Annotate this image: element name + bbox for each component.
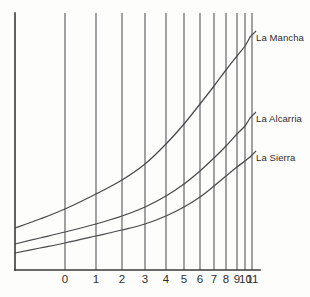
x-tick-label-5: 5	[181, 273, 187, 285]
label-leader-group	[250, 31, 256, 157]
gridline-group	[65, 13, 252, 270]
x-tick-label-11: 11	[247, 273, 259, 285]
line-chart: 01234567891011	[0, 0, 310, 297]
x-tick-label-7: 7	[211, 273, 217, 285]
x-axis-tick-label-group: 01234567891011	[62, 273, 259, 285]
series-label-la-alcarria: La Alcarria	[256, 114, 302, 124]
x-tick-label-6: 6	[197, 273, 203, 285]
x-tick-label-2: 2	[119, 273, 125, 285]
x-tick-label-8: 8	[223, 273, 229, 285]
series-line-group	[15, 37, 250, 253]
axis-group	[15, 13, 260, 270]
x-tick-label-3: 3	[142, 273, 148, 285]
series-line-la-sierra	[15, 157, 250, 253]
x-tick-label-1: 1	[93, 273, 99, 285]
series-label-la-mancha: La Mancha	[256, 33, 304, 43]
x-tick-label-4: 4	[163, 273, 170, 285]
series-line-la-alcarria	[15, 118, 250, 244]
series-line-la-mancha	[15, 37, 250, 228]
chart-container: 01234567891011 La ManchaLa AlcarriaLa Si…	[0, 0, 310, 297]
x-tick-label-0: 0	[62, 273, 68, 285]
series-label-la-sierra: La Sierra	[256, 153, 295, 163]
